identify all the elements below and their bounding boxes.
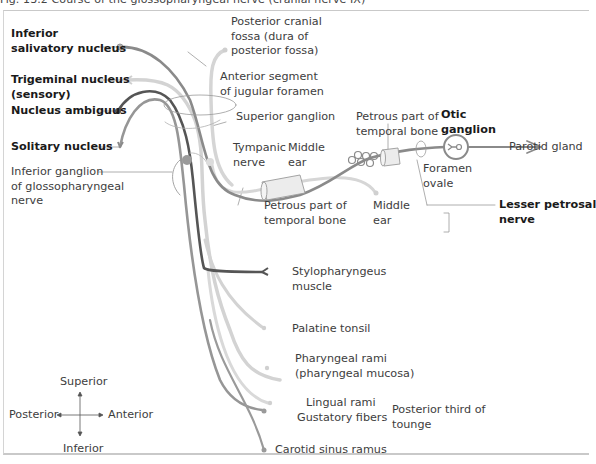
label-foramen-ovale: Foramen ovale: [423, 162, 472, 191]
label-anterior-segment-jugular-foramen: Anterior segment of jugular foramen: [220, 70, 324, 99]
label-trigeminal-nucleus: Trigeminal nucleus (sensory): [11, 73, 130, 102]
label-palatine-tonsil: Palatine tonsil: [292, 322, 370, 337]
label-otic-ganglion: Otic ganglion: [441, 108, 496, 137]
compass-superior: Superior: [60, 375, 107, 390]
compass-anterior: Anterior: [108, 408, 153, 423]
label-lingual-rami: Lingual rami: [306, 396, 376, 411]
label-tympanic-nerve: Tympanic nerve: [233, 141, 286, 170]
meningeal-dot: [223, 48, 228, 53]
label-gustatory-fibers: Gustatory fibers: [297, 411, 387, 426]
label-middle-ear-lower: Middle ear: [373, 199, 410, 228]
middle-ear-dot: [374, 191, 379, 196]
label-posterior-cranial-fossa: Posterior cranial fossa (dura of posteri…: [231, 15, 322, 59]
inferior-ganglion-dot: [182, 155, 192, 165]
carotid-sinus-branch: [210, 320, 264, 450]
label-petrous-part-upper: Petrous part of temporal bone: [356, 110, 439, 139]
label-posterior-third-of-tongue: Posterior third of tounge: [392, 403, 485, 432]
label-pharyngeal-rami: Pharyngeal rami (pharyngeal mucosa): [295, 352, 414, 381]
tympanic-plexus: [349, 152, 378, 167]
sensory-ganglion-dot: [206, 158, 214, 166]
compass-posterior: Posterior: [9, 408, 58, 423]
label-petrous-part-lower: Petrous part of temporal bone: [264, 199, 347, 228]
label-stylopharyngeus-muscle: Stylopharyngeus muscle: [292, 265, 386, 294]
label-superior-ganglion: Superior ganglion: [236, 110, 335, 125]
label-inferior-ganglion: Inferior ganglion of glossopharyngeal ne…: [11, 165, 124, 209]
sensory-pathway-pharyngeal: [126, 80, 280, 380]
label-nucleus-ambiguus: Nucleus ambiguus: [11, 104, 127, 119]
label-parotid-gland: Parotid gland: [509, 140, 583, 155]
petrous-bone-upper: [381, 148, 401, 166]
label-middle-ear-upper: Middle ear: [288, 141, 325, 170]
label-carotid-sinus-ramus: Carotid sinus ramus: [275, 443, 387, 458]
stylopharyngeus-fork-icon: [262, 268, 268, 275]
label-solitary-nucleus: Solitary nucleus: [11, 140, 113, 155]
otic-ganglion: [444, 135, 468, 159]
label-lesser-petrosal-nerve: Lesser petrosal nerve: [499, 198, 596, 227]
compass-inferior: Inferior: [63, 442, 103, 457]
label-inferior-salivatory-nucleus: Inferior salivatory nucleus: [11, 27, 126, 56]
orientation-compass: [57, 392, 103, 436]
